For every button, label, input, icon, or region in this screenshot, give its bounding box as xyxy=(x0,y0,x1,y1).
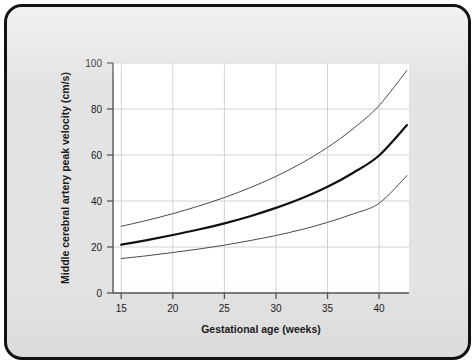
mca-peak-velocity-chart: 020406080100 152025303540 Gestational ag… xyxy=(7,7,474,363)
y-tick-label: 80 xyxy=(91,104,103,115)
x-tick-label: 40 xyxy=(374,303,386,314)
figure-card: 020406080100 152025303540 Gestational ag… xyxy=(4,4,471,360)
x-tick-label: 30 xyxy=(270,303,282,314)
y-tick-label: 20 xyxy=(91,242,103,253)
x-tick-label: 25 xyxy=(219,303,231,314)
x-tick-label: 20 xyxy=(167,303,179,314)
y-axis-title: Middle cerebral artery peak velocity (cm… xyxy=(59,72,71,284)
x-axis-ticks: 152025303540 xyxy=(116,293,385,314)
y-tick-label: 60 xyxy=(91,150,103,161)
x-tick-label: 35 xyxy=(322,303,334,314)
y-axis-ticks: 020406080100 xyxy=(85,58,113,299)
y-tick-label: 100 xyxy=(85,58,102,69)
y-tick-label: 0 xyxy=(96,288,102,299)
x-axis-title: Gestational age (weeks) xyxy=(201,323,321,335)
plot-area-background xyxy=(113,63,409,293)
y-tick-label: 40 xyxy=(91,196,103,207)
x-tick-label: 15 xyxy=(116,303,128,314)
